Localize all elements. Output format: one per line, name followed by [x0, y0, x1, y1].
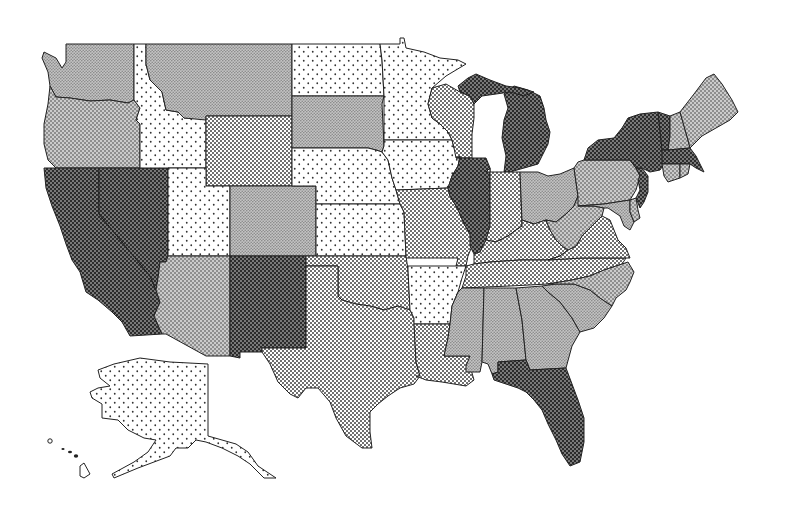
state-KS[interactable]: [316, 204, 406, 256]
state-WA[interactable]: [42, 44, 134, 103]
state-MI[interactable]: [502, 86, 550, 172]
state-FL[interactable]: [492, 360, 584, 466]
hawaii-island-big-island: [80, 463, 90, 478]
state-PA[interactable]: [574, 160, 640, 206]
state-AZ[interactable]: [154, 256, 230, 356]
state-AK[interactable]: [90, 358, 276, 478]
state-IA[interactable]: [382, 140, 460, 190]
hawaii-island-maui: [74, 454, 78, 458]
state-CO[interactable]: [230, 186, 316, 256]
hawaii-island-niihau-kauai: [48, 439, 52, 443]
state-RI[interactable]: [680, 164, 690, 178]
map-canvas: [0, 0, 786, 512]
state-SD[interactable]: [292, 96, 384, 152]
state-NM[interactable]: [230, 256, 306, 358]
hawaii-island-oahu: [61, 448, 64, 450]
state-ND[interactable]: [292, 44, 384, 96]
state-ME[interactable]: [680, 74, 738, 148]
state-HI[interactable]: [48, 439, 90, 478]
us-choropleth-map: [0, 0, 786, 512]
state-WY[interactable]: [206, 116, 292, 186]
hawaii-island-molokai: [68, 451, 72, 453]
state-CT[interactable]: [662, 164, 680, 182]
state-MT[interactable]: [146, 44, 292, 120]
